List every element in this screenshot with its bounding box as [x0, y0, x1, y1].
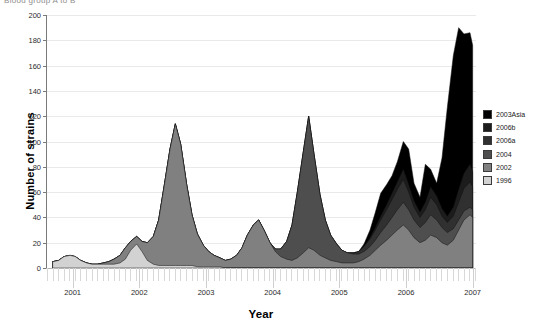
x-minor-tick	[241, 268, 242, 281]
x-minor-tick	[425, 268, 426, 281]
stacked-area-series	[46, 15, 476, 268]
x-major-tick	[473, 268, 474, 288]
x-minor-tick	[286, 268, 287, 281]
x-minor-tick	[291, 268, 292, 281]
legend-label: 2002	[496, 164, 512, 171]
x-minor-tick	[158, 268, 159, 281]
y-tick-mark	[43, 142, 46, 143]
x-axis: 2001200220032004200520062007	[46, 268, 476, 308]
legend-item[interactable]: 2003Asia	[483, 108, 541, 121]
x-minor-tick	[353, 268, 354, 281]
x-minor-tick	[236, 268, 237, 281]
legend-item[interactable]: 2002	[483, 161, 541, 174]
legend-swatch-icon	[483, 136, 492, 145]
y-tick-mark	[43, 116, 46, 117]
x-minor-tick	[219, 268, 220, 281]
x-minor-tick	[391, 268, 392, 281]
x-minor-tick	[341, 268, 342, 281]
legend-swatch-icon	[483, 163, 492, 172]
legend: 2003Asia2006b2006a200420021996	[483, 108, 541, 187]
x-minor-tick	[108, 268, 109, 281]
x-minor-tick	[147, 268, 148, 281]
x-minor-tick	[247, 268, 248, 281]
x-minor-tick	[153, 268, 154, 281]
x-minor-tick	[186, 268, 187, 281]
x-minor-tick	[419, 268, 420, 281]
x-minor-tick	[208, 268, 209, 281]
x-minor-tick	[258, 268, 259, 281]
x-minor-tick	[80, 268, 81, 281]
x-minor-tick	[469, 268, 470, 281]
x-minor-tick	[303, 268, 304, 281]
cut-off-header: Blood group A to B	[4, 0, 76, 5]
x-major-tick	[139, 268, 140, 288]
x-minor-tick	[336, 268, 337, 281]
x-minor-tick	[464, 268, 465, 281]
x-tick-label: 2005	[331, 288, 348, 297]
x-axis-title: Year	[46, 308, 476, 320]
x-major-tick	[206, 268, 207, 288]
x-minor-tick	[369, 268, 370, 281]
x-minor-tick	[330, 268, 331, 281]
legend-item[interactable]: 2006b	[483, 121, 541, 134]
x-minor-tick	[297, 268, 298, 281]
x-minor-tick	[453, 268, 454, 281]
x-minor-tick	[475, 268, 476, 281]
legend-item[interactable]: 1996	[483, 174, 541, 187]
x-minor-tick	[308, 268, 309, 281]
plot-area	[46, 15, 476, 268]
y-tick-mark	[43, 217, 46, 218]
x-minor-tick	[142, 268, 143, 281]
y-tick-mark	[43, 167, 46, 168]
x-minor-tick	[64, 268, 65, 281]
x-minor-tick	[130, 268, 131, 281]
y-tick-label: 0	[37, 264, 41, 273]
legend-item[interactable]: 2006a	[483, 134, 541, 147]
x-minor-tick	[53, 268, 54, 281]
x-minor-tick	[119, 268, 120, 281]
x-major-tick	[73, 268, 74, 288]
x-minor-tick	[225, 268, 226, 281]
legend-item[interactable]: 2004	[483, 148, 541, 161]
x-minor-tick	[325, 268, 326, 281]
x-major-tick	[339, 268, 340, 288]
legend-label: 1996	[496, 177, 512, 184]
x-minor-tick	[347, 268, 348, 281]
x-minor-tick	[125, 268, 126, 281]
legend-swatch-icon	[483, 150, 492, 159]
x-minor-tick	[114, 268, 115, 281]
y-tick-mark	[43, 192, 46, 193]
legend-label: 2006a	[496, 137, 515, 144]
x-minor-tick	[380, 268, 381, 281]
x-minor-tick	[92, 268, 93, 281]
x-major-tick	[273, 268, 274, 288]
x-minor-tick	[430, 268, 431, 281]
x-minor-tick	[230, 268, 231, 281]
chart-figure: Blood group A to B 020406080100120140160…	[0, 0, 541, 334]
x-minor-tick	[97, 268, 98, 281]
x-minor-tick	[47, 268, 48, 281]
legend-swatch-icon	[483, 110, 492, 119]
y-tick-label: 200	[28, 11, 41, 20]
x-minor-tick	[447, 268, 448, 281]
legend-label: 2004	[496, 151, 512, 158]
x-tick-label: 2006	[398, 288, 415, 297]
x-minor-tick	[403, 268, 404, 281]
legend-label: 2006b	[496, 124, 515, 131]
x-minor-tick	[386, 268, 387, 281]
legend-label: 2003Asia	[496, 111, 525, 118]
x-minor-tick	[414, 268, 415, 281]
y-tick-label: 160	[28, 61, 41, 70]
x-minor-tick	[169, 268, 170, 281]
x-minor-tick	[253, 268, 254, 281]
x-minor-tick	[441, 268, 442, 281]
x-minor-tick	[269, 268, 270, 281]
x-tick-label: 2001	[64, 288, 81, 297]
x-minor-tick	[436, 268, 437, 281]
x-minor-tick	[197, 268, 198, 281]
legend-swatch-icon	[483, 176, 492, 185]
x-minor-tick	[458, 268, 459, 281]
x-minor-tick	[192, 268, 193, 281]
x-minor-tick	[397, 268, 398, 281]
x-minor-tick	[375, 268, 376, 281]
